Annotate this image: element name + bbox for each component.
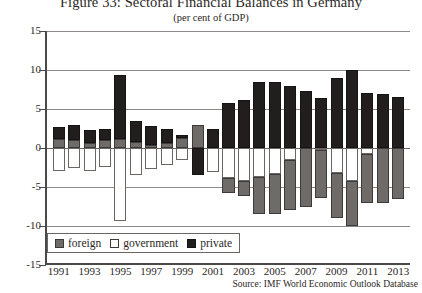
bar-segment xyxy=(253,148,265,177)
bar-segment xyxy=(315,98,327,148)
legend-label: government xyxy=(123,237,178,249)
bar-segment xyxy=(99,148,111,167)
legend-item-foreign: foreign xyxy=(55,237,101,249)
x-axis-tick-label: 2009 xyxy=(326,266,348,277)
bar-segment xyxy=(222,103,234,148)
bar-segment xyxy=(53,139,65,148)
x-axis-tick-label: 1999 xyxy=(171,266,193,277)
bar-segment xyxy=(300,148,312,207)
bar-segment xyxy=(68,148,80,168)
bar-segment xyxy=(99,129,111,141)
y-axis-tick xyxy=(39,109,46,110)
x-axis-tick-label: 1991 xyxy=(48,266,70,277)
bar-segment xyxy=(114,75,126,139)
bar-segment xyxy=(207,148,219,172)
source-note: Source: IMF World Economic Outlook Datab… xyxy=(232,279,418,289)
bar-segment xyxy=(68,125,80,141)
bar-segment xyxy=(331,173,343,218)
y-axis-tick xyxy=(39,187,46,188)
x-axis-tick-label: 1993 xyxy=(79,266,101,277)
bar-segment xyxy=(284,160,296,209)
y-axis-tick xyxy=(39,31,46,32)
gridline xyxy=(47,31,410,32)
x-axis-tick-label: 1995 xyxy=(109,266,131,277)
bar-segment xyxy=(300,91,312,148)
legend-item-government: government xyxy=(110,237,178,249)
bar-segment xyxy=(114,148,126,221)
legend-label: foreign xyxy=(68,237,101,249)
bar-segment xyxy=(145,148,157,169)
figure-subtitle: (per cent of GDP) xyxy=(0,12,422,23)
bar-segment xyxy=(392,97,404,148)
bar-segment xyxy=(84,130,96,142)
chart-legend: foreigngovernmentprivate xyxy=(47,233,240,253)
y-axis-tick xyxy=(39,148,46,149)
gridline xyxy=(47,226,410,227)
bar-segment xyxy=(222,178,234,194)
bar-segment xyxy=(346,181,358,226)
bar-segment xyxy=(253,82,265,148)
x-axis-tick-label: 2003 xyxy=(233,266,255,277)
legend-swatch-private-icon xyxy=(187,239,196,248)
bar-segment xyxy=(361,93,373,148)
bar-segment xyxy=(161,129,173,142)
y-axis-labels: 151050-5-10-15 xyxy=(0,31,41,265)
bar-segment xyxy=(130,121,142,141)
y-axis-tick xyxy=(39,226,46,227)
y-axis-tick xyxy=(39,70,46,71)
bar-segment xyxy=(269,82,281,148)
bar-segment xyxy=(284,148,296,160)
bar-segment xyxy=(361,154,373,202)
bar-segment xyxy=(377,148,389,203)
bar-segment xyxy=(130,148,142,175)
bar-segment xyxy=(238,181,250,196)
bar-segment xyxy=(145,126,157,145)
x-axis-tick-label: 1997 xyxy=(140,266,162,277)
legend-label: private xyxy=(200,237,232,249)
bar-segment xyxy=(238,100,250,148)
bar-segment xyxy=(269,174,281,214)
bar-segment xyxy=(176,138,188,148)
bar-segment xyxy=(269,148,281,174)
bar-segment xyxy=(331,78,343,148)
bar-segment xyxy=(377,94,389,148)
bar-segment xyxy=(253,177,265,214)
x-axis-tick-label: 2005 xyxy=(264,266,286,277)
figure-container: Figure 33: Sectoral Financial Balances i… xyxy=(0,0,422,293)
bar-segment xyxy=(331,148,343,173)
plot-area xyxy=(45,31,410,265)
legend-item-private: private xyxy=(187,237,232,249)
bar-segment xyxy=(53,148,65,171)
bar-segment xyxy=(176,135,188,138)
bar-segment xyxy=(114,139,126,148)
bar-segment xyxy=(192,148,204,175)
x-axis-tick-label: 2001 xyxy=(202,266,224,277)
bar-segment xyxy=(222,148,234,178)
figure-title: Figure 33: Sectoral Financial Balances i… xyxy=(0,0,422,11)
bar-segment xyxy=(207,129,219,148)
bar-segment xyxy=(53,127,65,139)
bar-segment xyxy=(346,70,358,148)
x-axis-tick-label: 2013 xyxy=(387,266,409,277)
bar-segment xyxy=(238,148,250,181)
bar-segment xyxy=(68,140,80,148)
bar-segment xyxy=(84,148,96,171)
bar-segment xyxy=(161,148,173,165)
bar-segment xyxy=(192,125,204,148)
bar-segment xyxy=(315,150,327,198)
legend-swatch-foreign-icon xyxy=(55,239,64,248)
x-axis-tick-label: 2007 xyxy=(295,266,317,277)
bar-segment xyxy=(99,140,111,148)
bar-segment xyxy=(346,148,358,181)
bar-segment xyxy=(284,86,296,148)
x-axis-tick-label: 2011 xyxy=(357,266,379,277)
bar-segment xyxy=(392,148,404,199)
legend-swatch-government-icon xyxy=(110,239,119,248)
bar-segment xyxy=(176,148,188,160)
